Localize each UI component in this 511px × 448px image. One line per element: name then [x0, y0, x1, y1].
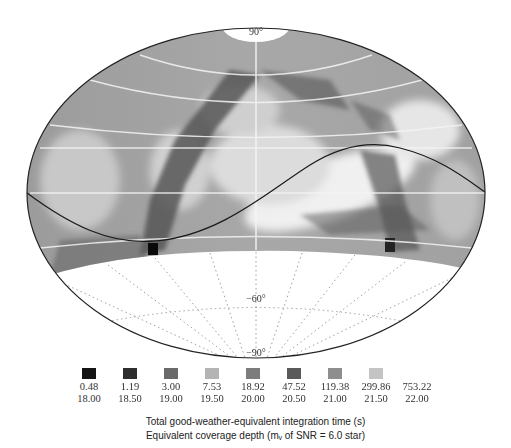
- lat-minus60-label: −60°: [246, 293, 266, 304]
- legend-swatch: [369, 368, 383, 379]
- north-pole-label: 90°: [249, 26, 263, 37]
- legend-swatch: [82, 368, 96, 379]
- south-pole-label: −90°: [246, 347, 266, 358]
- sky-coverage-map: 90° −60° −90°: [0, 0, 511, 365]
- caption-integration-time: Total good-weather-equivalent integratio…: [0, 416, 511, 427]
- legend-swatch: [164, 368, 178, 379]
- legend-swatch: [205, 368, 219, 379]
- southern-grid: [60, 252, 452, 358]
- legend-swatch: [123, 368, 137, 379]
- legend-swatch: [410, 368, 424, 379]
- legend-item: 753.22 22.00: [393, 368, 441, 405]
- legend-swatch: [328, 368, 342, 379]
- legend-swatch: [287, 368, 301, 379]
- caption-coverage-depth: Equivalent coverage depth (mᵥ of SNR = 6…: [0, 430, 511, 441]
- coverage-region: [0, 0, 511, 365]
- legend-swatch: [246, 368, 260, 379]
